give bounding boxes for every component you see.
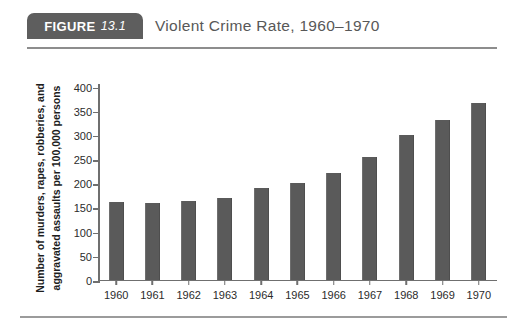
y-axis-tick-label: 250 (74, 154, 92, 166)
bar-slot (207, 86, 243, 280)
bar (290, 183, 305, 280)
x-axis-tick-label: 1967 (352, 289, 388, 305)
x-axis-tick-label: 1961 (134, 289, 170, 305)
y-axis-tick-label: 0 (86, 275, 92, 287)
figure-header: FIGURE 13.1 Violent Crime Rate, 1960–197… (0, 0, 523, 56)
y-axis-tick-label: 150 (74, 202, 92, 214)
bar-slot (243, 86, 279, 280)
y-axis-tick-label: 300 (74, 130, 92, 142)
x-axis-tick-label: 1960 (98, 289, 134, 305)
y-axis-tick-label: 50 (80, 251, 92, 263)
x-axis-tick (297, 280, 299, 285)
x-axis-tick (406, 280, 408, 285)
bar-slot (279, 86, 315, 280)
x-axis-tick-label: 1966 (316, 289, 352, 305)
bar (435, 120, 450, 279)
x-axis-tick-label: 1964 (243, 289, 279, 305)
x-axis-tick (478, 280, 480, 285)
bar-slot (316, 86, 352, 280)
x-axis-tick (369, 280, 371, 285)
x-axis-tick (115, 280, 117, 285)
footer-divider (20, 316, 507, 318)
bar-slot (388, 86, 424, 280)
bar-slot (461, 86, 497, 280)
header-divider (27, 47, 497, 49)
x-axis-tick (442, 280, 444, 285)
x-axis-tick-label: 1965 (279, 289, 315, 305)
bar (471, 103, 486, 279)
x-axis-tick (333, 280, 335, 285)
bar (181, 201, 196, 279)
bar-series (98, 86, 497, 280)
x-axis-tick (260, 280, 262, 285)
x-axis-tick-label: 1963 (207, 289, 243, 305)
bar (145, 203, 160, 279)
figure-title: Violent Crime Rate, 1960–1970 (155, 17, 380, 35)
x-axis-tick (152, 280, 154, 285)
x-axis-tick-labels: 1960196119621963196419651966196719681969… (98, 289, 497, 305)
bar-slot (171, 86, 207, 280)
bar (362, 157, 377, 279)
figure-badge-number: 13.1 (101, 19, 126, 33)
figure-number-badge: FIGURE 13.1 (27, 13, 143, 39)
plot-area (98, 86, 497, 281)
y-axis-tick-label: 350 (74, 106, 92, 118)
x-axis-tick-label: 1962 (171, 289, 207, 305)
y-axis-tick-label: 400 (74, 82, 92, 94)
x-axis-tick-label: 1968 (388, 289, 424, 305)
y-axis-tick (93, 281, 99, 283)
y-axis-title-line-1: Number of murders, rapes, robberies, and (32, 78, 48, 298)
y-axis-tick-label: 200 (74, 178, 92, 190)
chart-area: Number of murders, rapes, robberies, and… (0, 56, 523, 306)
x-axis-tick (188, 280, 190, 285)
bar-slot (352, 86, 388, 280)
y-axis-tick-label: 100 (74, 227, 92, 239)
figure-badge-word: FIGURE (44, 19, 96, 34)
x-axis-tick (224, 280, 226, 285)
bar-slot (98, 86, 134, 280)
bar (326, 173, 341, 279)
y-axis-tick-labels: 400350300250200150100500 (60, 86, 92, 281)
bar (254, 188, 269, 280)
bar (399, 135, 414, 279)
x-axis-tick-label: 1970 (461, 289, 497, 305)
bar-slot (134, 86, 170, 280)
bar (217, 198, 232, 279)
x-axis-tick-label: 1969 (424, 289, 460, 305)
y-axis-title: Number of murders, rapes, robberies, and… (16, 78, 50, 298)
bar-slot (424, 86, 460, 280)
bar (109, 202, 124, 279)
figure-root: FIGURE 13.1 Violent Crime Rate, 1960–197… (0, 0, 523, 324)
